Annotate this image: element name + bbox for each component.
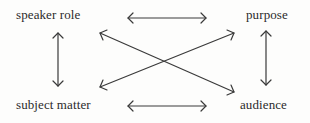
arrow-speaker-audience [100, 30, 234, 95]
rhetorical-diagram: speaker role purpose subject matter audi… [0, 0, 310, 123]
arrow-purpose-audience [261, 31, 271, 85]
arrow-subject-purpose [100, 30, 234, 90]
arrow-speaker-subject [53, 33, 63, 86]
arrows-layer [0, 0, 310, 123]
arrow-speaker-purpose [128, 13, 206, 23]
arrow-subject-audience [128, 101, 206, 111]
